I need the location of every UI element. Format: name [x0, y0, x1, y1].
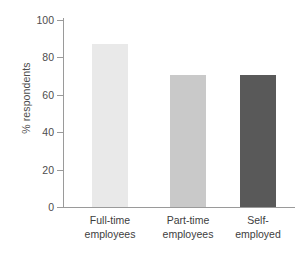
x-axis-line [63, 207, 295, 208]
bar [92, 44, 128, 207]
x-axis-category-label-line: employed [206, 227, 303, 241]
plot-area [63, 20, 295, 207]
x-axis-category-label: Self-employed [206, 213, 303, 241]
y-axis-tick [57, 207, 63, 208]
bar-chart: % respondents 020406080100 Full-timeempl… [0, 0, 303, 255]
y-axis-tick-label: 80 [12, 52, 54, 63]
bar [170, 75, 206, 207]
y-axis-tick-label: 60 [12, 90, 54, 101]
bar [240, 75, 276, 207]
y-axis-tick-label: 20 [12, 165, 54, 176]
y-axis-tick-label: 100 [12, 15, 54, 26]
y-axis-tick-label: 40 [12, 127, 54, 138]
x-axis-category-label-line: Self- [206, 213, 303, 227]
y-axis-tick-label: 0 [12, 202, 54, 213]
